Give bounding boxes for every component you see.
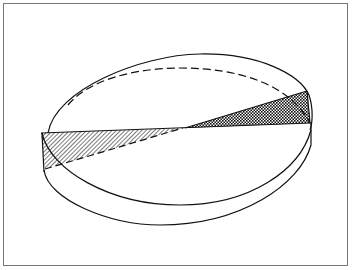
- cutting-line-horizontal: [41, 123, 311, 133]
- disk-diagram: [0, 0, 352, 270]
